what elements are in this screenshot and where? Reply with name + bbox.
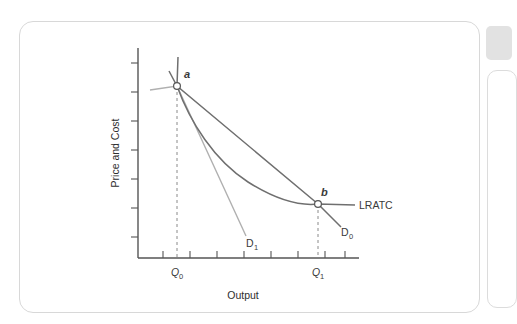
axes-group (138, 48, 359, 258)
curve-d1 (150, 86, 246, 236)
drop-lines-group (177, 86, 318, 258)
x-tick-label-q0: Q 0 (171, 266, 183, 281)
q1-label-sub: 1 (320, 272, 324, 281)
point-b-label: b (321, 186, 328, 198)
d0-label-sub: 0 (349, 232, 353, 241)
lratc-label: LRATC (359, 199, 393, 211)
q0-label-base: Q (171, 266, 179, 278)
d1-label-sub: 1 (254, 243, 258, 252)
point-b-marker (315, 201, 322, 208)
q1-label-base: Q (312, 266, 320, 278)
y-axis-ticks (131, 63, 138, 237)
curve-lratc (177, 57, 355, 205)
x-tick-label-q1: Q 1 (312, 266, 324, 281)
d0-label: D 0 (341, 226, 353, 241)
point-a-marker (174, 83, 181, 90)
q0-label-sub: 0 (179, 272, 183, 281)
d1-label: D 1 (246, 237, 258, 252)
x-axis-title: Output (227, 289, 259, 301)
y-axis-title: Price and Cost (109, 118, 121, 187)
d0-label-base: D (341, 226, 349, 238)
point-a-label: a (184, 68, 190, 80)
d1-label-base: D (246, 237, 254, 249)
